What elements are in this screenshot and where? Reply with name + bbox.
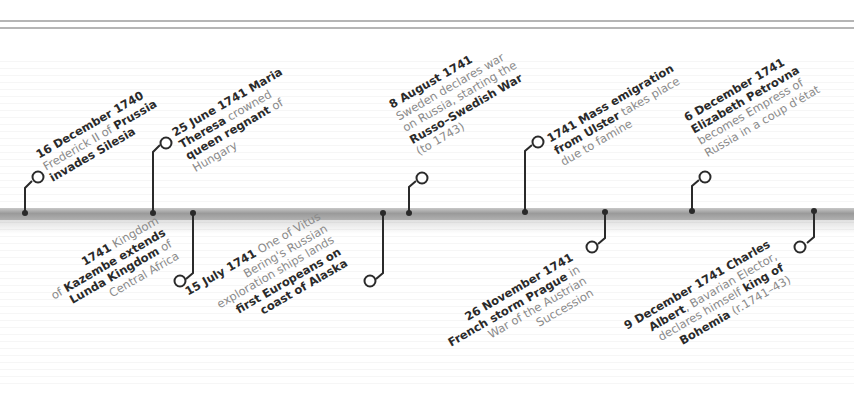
connector-e3 [175, 210, 197, 287]
event-pin-icon [161, 138, 172, 149]
timeline-connectors [0, 0, 854, 416]
connector-e9 [795, 208, 818, 253]
event-dot-icon [602, 209, 608, 215]
event-dot-icon [522, 209, 528, 215]
connector-e1 [22, 172, 44, 217]
connector-e4 [365, 210, 387, 287]
connector-e2 [150, 138, 172, 217]
event-pin-icon [700, 172, 711, 183]
event-dot-icon [406, 210, 412, 216]
event-pin-icon [533, 137, 544, 148]
connector-e5 [406, 173, 428, 217]
event-pin-icon [33, 172, 44, 183]
connector-e7 [587, 209, 609, 253]
event-dot-icon [190, 210, 196, 216]
event-dot-icon [689, 208, 695, 214]
event-pin-icon [365, 276, 376, 287]
event-dot-icon [811, 208, 817, 214]
event-pin-icon [587, 242, 598, 253]
event-pin-icon [417, 173, 428, 184]
event-dot-icon [22, 210, 28, 216]
event-pin-icon [795, 242, 806, 253]
event-dot-icon [380, 210, 386, 216]
connector-e6 [522, 137, 544, 216]
connector-e8 [689, 172, 711, 215]
